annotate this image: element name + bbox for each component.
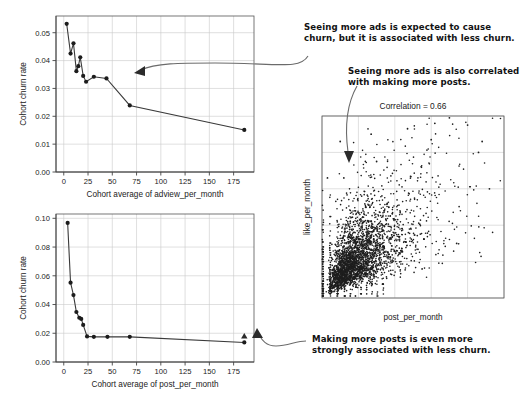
callout-arrow-posts-churn xyxy=(259,335,306,346)
callout-arrow-ads-churn xyxy=(141,56,308,70)
callout-arrow-ads-churn-head xyxy=(134,66,145,76)
callout-arrows xyxy=(0,0,531,403)
callout-arrow-posts-churn-head xyxy=(252,328,263,338)
callout-arrow-ads-posts xyxy=(347,86,357,152)
callout-arrow-ads-posts-head xyxy=(344,151,354,163)
